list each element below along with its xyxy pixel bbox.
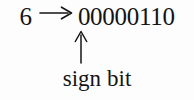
- caption-word-bit: bit: [107, 66, 131, 91]
- decimal-value: 6: [19, 4, 32, 29]
- up-arrow-icon: [70, 30, 92, 64]
- right-arrow-icon: [39, 5, 73, 25]
- sign-bit-caption: signbit: [0, 66, 194, 91]
- binary-value: 00000110: [78, 4, 175, 29]
- caption-word-sign: sign: [63, 66, 101, 91]
- sign-bit-illustration: 6 00000110 signbit: [0, 0, 194, 100]
- binary-conversion-expression: 6 00000110: [0, 1, 194, 31]
